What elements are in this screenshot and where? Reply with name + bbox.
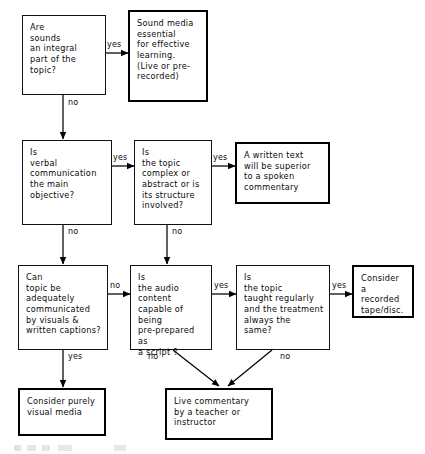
edge-label-audio-no: no: [148, 352, 158, 361]
edge-label-audio-yes: yes: [214, 281, 228, 290]
node-question-taught-regularly[interactable]: Is the topic taught regularly and the tr…: [236, 265, 330, 350]
page-bottom-artifact: [14, 445, 194, 451]
connector-regular-no: [228, 350, 272, 386]
node-outcome-recorded-tape[interactable]: Consider a recorded tape/disc.: [352, 265, 414, 318]
node-question-complex[interactable]: Is the topic complex or abstract or is i…: [134, 140, 212, 225]
node-outcome-live-commentary[interactable]: Live commentary by a teacher or instruct…: [165, 388, 273, 440]
node-question-audio-script[interactable]: Is the audio content capable of being pr…: [130, 265, 212, 350]
node-outcome-visual-media[interactable]: Consider purely visual media: [18, 388, 106, 436]
edge-label-complex-no: no: [172, 227, 182, 236]
edge-label-visuals-yes: yes: [68, 352, 82, 361]
edge-label-verbal-yes: yes: [113, 153, 127, 162]
edge-label-regular-yes: yes: [332, 281, 346, 290]
node-question-visuals[interactable]: Can topic be adequately communicated by …: [18, 265, 108, 350]
edge-label-sounds-yes: yes: [107, 40, 121, 49]
edge-label-regular-no: no: [280, 352, 290, 361]
node-outcome-written-text[interactable]: A written text will be superior to a spo…: [235, 142, 330, 204]
flowchart-canvas: Are sounds an integral part of the topic…: [0, 0, 425, 454]
edge-label-complex-yes: yes: [213, 153, 227, 162]
node-question-sounds[interactable]: Are sounds an integral part of the topic…: [22, 15, 106, 95]
node-question-verbal[interactable]: Is verbal communication the main objecti…: [22, 140, 112, 225]
edge-label-sounds-no: no: [68, 98, 78, 107]
node-outcome-sound-media[interactable]: Sound media essential for effective lear…: [128, 10, 208, 102]
edge-label-verbal-no: no: [68, 227, 78, 236]
edge-label-visuals-no: no: [110, 281, 120, 290]
connector-audio-no: [173, 350, 219, 386]
